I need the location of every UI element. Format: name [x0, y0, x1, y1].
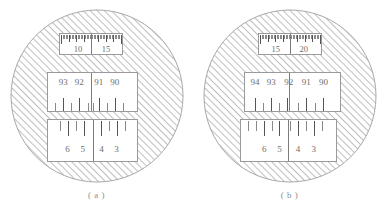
- tick-mark: [323, 98, 324, 111]
- tick-mark: [117, 121, 118, 136]
- scale-divider: [290, 34, 291, 54]
- tick-mark: [306, 121, 307, 131]
- scale-number: 4: [99, 144, 104, 154]
- tick-mark: [279, 121, 280, 136]
- figure-stage: 10 15 93 92 91 90: [0, 0, 387, 212]
- tick-mark: [125, 121, 126, 131]
- scale-divider: [91, 34, 92, 54]
- tick-mark: [63, 98, 64, 111]
- tick-mark: [314, 121, 315, 136]
- tick-mark: [99, 98, 100, 111]
- scale-number: 3: [311, 144, 316, 154]
- tick-mark: [109, 121, 110, 131]
- scale-middle-b: 94 93 92 91 90: [244, 72, 341, 112]
- tick-mark: [68, 121, 69, 136]
- scale-number: 4: [296, 144, 301, 154]
- scale-number: 6: [65, 144, 70, 154]
- tick-mark: [263, 103, 264, 111]
- tick-mark: [76, 121, 77, 131]
- scale-number: 5: [80, 144, 85, 154]
- scale-divider: [93, 120, 94, 161]
- tick-mark: [71, 103, 72, 111]
- scale-number: 3: [114, 144, 119, 154]
- scale-middle-a: 93 92 91 90: [47, 72, 138, 112]
- tick-mark: [290, 121, 291, 131]
- scale-number: 10: [74, 44, 83, 54]
- scale-number: 20: [299, 44, 308, 54]
- tick-mark: [101, 121, 102, 136]
- tick-mark: [298, 121, 299, 136]
- tick-mark: [248, 121, 249, 131]
- scale-divider: [288, 120, 289, 161]
- scale-top-b: 15 20: [258, 33, 322, 55]
- tick-mark: [107, 103, 108, 111]
- panel-caption-b: ( b ): [193, 190, 386, 200]
- tick-mark: [121, 35, 122, 44]
- tick-mark: [279, 103, 280, 111]
- scale-bottom-a: 6 5 4 3: [47, 119, 138, 162]
- tick-mark: [287, 98, 288, 111]
- tick-mark: [272, 121, 273, 131]
- scale-number: 15: [102, 44, 111, 54]
- tick-mark: [306, 98, 307, 111]
- tick-mark: [55, 103, 56, 111]
- tick-mark: [79, 98, 80, 111]
- tick-mark: [315, 103, 316, 111]
- scale-top-a: 10 15: [59, 33, 123, 55]
- tick-mark: [123, 103, 124, 111]
- tick-row-middle-a: [48, 73, 137, 111]
- scale-number: 15: [271, 44, 280, 54]
- panel-a: 10 15 93 92 91 90: [0, 0, 193, 212]
- panel-caption-a: ( a ): [0, 190, 193, 200]
- scale-number: 6: [262, 144, 267, 154]
- tick-mark: [322, 121, 323, 131]
- scale-divider: [289, 73, 290, 111]
- tick-mark: [298, 103, 299, 111]
- tick-mark: [271, 98, 272, 111]
- tick-mark: [264, 121, 265, 136]
- tick-mark: [255, 98, 256, 111]
- tick-mark: [256, 121, 257, 131]
- scale-divider: [91, 73, 92, 111]
- panel-b: 15 20 94 93 92 91 90: [193, 0, 386, 212]
- scale-bottom-b: 6 5 4 3: [240, 119, 337, 162]
- scale-number: 5: [277, 144, 282, 154]
- tick-mark: [115, 98, 116, 111]
- tick-row-middle-b: [245, 73, 340, 111]
- tick-mark: [88, 103, 89, 111]
- tick-mark: [320, 35, 321, 44]
- tick-mark: [84, 121, 85, 136]
- tick-mark: [93, 103, 94, 111]
- tick-mark: [60, 121, 61, 131]
